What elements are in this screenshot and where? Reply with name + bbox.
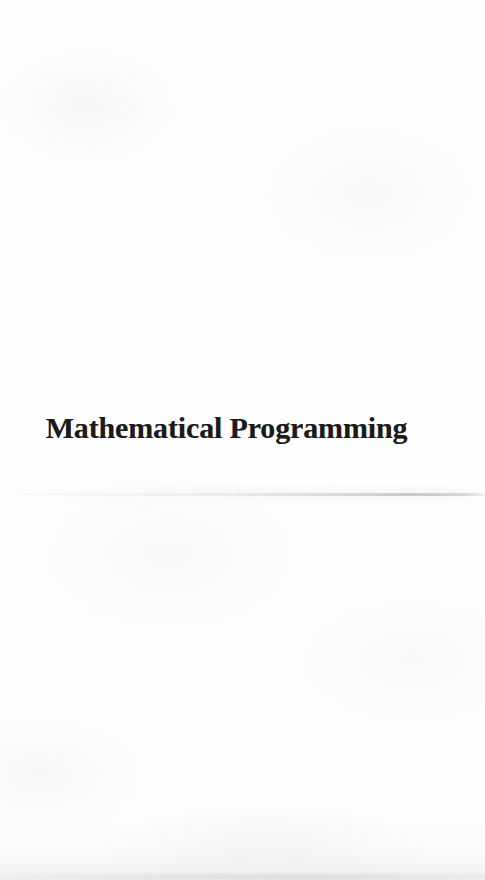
page-title-block: Mathematical Programming — [0, 410, 485, 446]
page-title: Mathematical Programming — [46, 410, 408, 446]
horizontal-scan-streak — [0, 493, 485, 496]
bottom-edge-shading — [0, 810, 485, 880]
bottom-edge-line — [0, 874, 485, 880]
scan-streak-halo — [0, 487, 485, 501]
scanned-page: Mathematical Programming — [0, 0, 485, 880]
